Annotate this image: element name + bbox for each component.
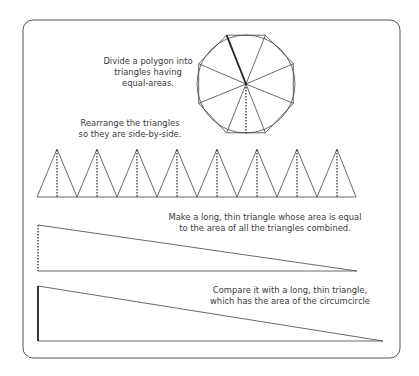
- frame: [23, 20, 400, 358]
- polygon-area-diagram: [0, 0, 419, 376]
- step3-label: Make a long, thin triangle whose area is…: [150, 212, 380, 234]
- circle-with-octagon: [197, 35, 295, 133]
- step1-label: Divide a polygon into triangles having e…: [88, 56, 208, 89]
- step2-label: Rearrange the triangles so they are side…: [70, 118, 190, 140]
- triangle-row: [37, 149, 356, 197]
- step4-label: Compare it with a long, thin triangle, w…: [200, 285, 380, 307]
